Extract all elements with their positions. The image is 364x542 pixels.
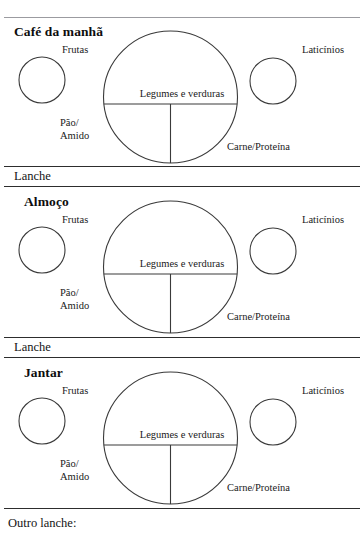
label-starch-lunch: Pão/ Amido [60, 287, 89, 312]
label-dairy-lunch: Laticínios [302, 214, 344, 227]
label-protein-lunch: Carne/Proteína [227, 311, 290, 324]
snack-label-1: Lanche [14, 169, 51, 184]
snack-label-2: Lanche [14, 340, 51, 355]
meal-plan-page: Café da manhã Legumes e verduras Frutas … [0, 0, 364, 542]
label-vegetables-lunch: Legumes e verduras [0, 258, 364, 271]
label-starch-dinner-line2: Amido [60, 471, 89, 484]
plate-diagram-dinner: Legumes e verduras Frutas Laticínios Pão… [0, 369, 364, 509]
label-dairy-breakfast: Laticínios [302, 44, 344, 57]
label-starch-breakfast: Pão/ Amido [60, 117, 89, 142]
label-starch-lunch-line2: Amido [60, 300, 89, 313]
divider-snack-1-bottom [4, 186, 360, 187]
other-snack-label: Outro lanche: [8, 516, 76, 531]
label-starch-breakfast-line2: Amido [60, 130, 89, 143]
label-starch-dinner: Pão/ Amido [60, 458, 89, 483]
label-fruit-lunch: Frutas [62, 214, 88, 227]
label-starch-breakfast-line1: Pão/ [60, 117, 89, 130]
plate-diagram-breakfast: Legumes e verduras Frutas Laticínios Pão… [0, 28, 364, 168]
divider-other-snack [4, 508, 360, 509]
label-vegetables-breakfast: Legumes e verduras [0, 88, 364, 101]
label-protein-breakfast: Carne/Proteína [227, 141, 290, 154]
label-dairy-dinner: Laticínios [302, 385, 344, 398]
label-vegetables-dinner: Legumes e verduras [0, 429, 364, 442]
label-protein-dinner: Carne/Proteína [227, 482, 290, 495]
label-starch-dinner-line1: Pão/ [60, 458, 89, 471]
divider-snack-2-bottom [4, 357, 360, 358]
divider-snack-2-top [4, 337, 360, 338]
plate-diagram-lunch: Legumes e verduras Frutas Laticínios Pão… [0, 198, 364, 338]
cropped-page-header [0, 0, 364, 7]
divider-top [4, 17, 360, 18]
label-fruit-dinner: Frutas [62, 385, 88, 398]
divider-snack-1-top [4, 166, 360, 167]
label-fruit-breakfast: Frutas [62, 44, 88, 57]
label-starch-lunch-line1: Pão/ [60, 287, 89, 300]
